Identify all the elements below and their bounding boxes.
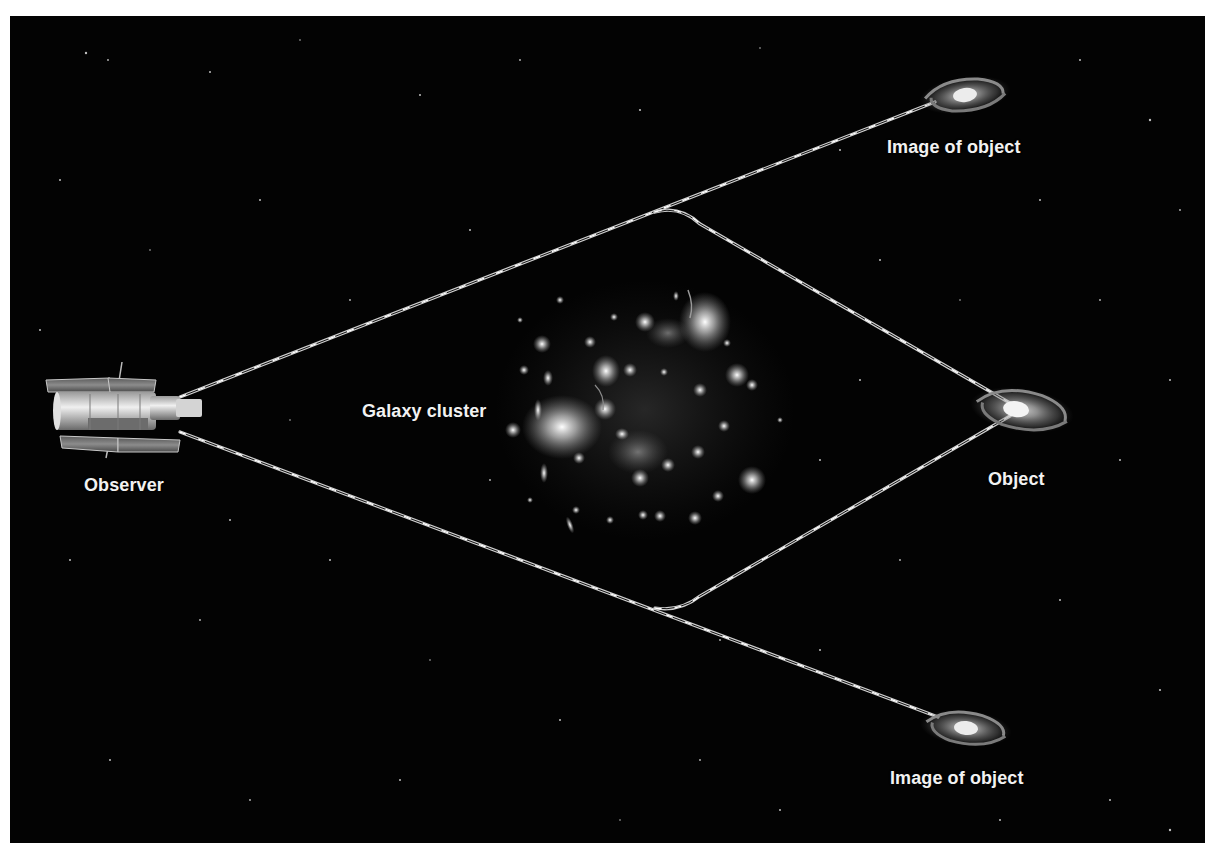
galaxy-cluster xyxy=(495,280,795,540)
spiral-galaxy-icon-image-bottom xyxy=(918,705,1013,750)
galaxy-cluster-label: Galaxy cluster xyxy=(362,402,486,420)
observer-label: Observer xyxy=(84,476,164,494)
spiral-galaxy-icon-image-top xyxy=(917,71,1013,119)
gravitational-lensing-diagram xyxy=(10,16,1205,843)
image-of-object-bottom-label: Image of object xyxy=(890,769,1024,787)
space-telescope-icon xyxy=(46,362,202,458)
image-of-object-top-label: Image of object xyxy=(887,138,1021,156)
object-label: Object xyxy=(988,470,1045,488)
diagram-panel: Observer Galaxy cluster Object Image of … xyxy=(10,16,1205,843)
